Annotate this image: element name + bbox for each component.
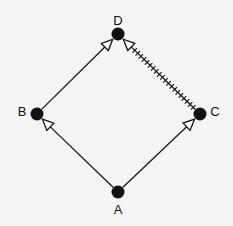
- edge-b-d: [42, 39, 113, 109]
- graph-svg: [0, 0, 233, 226]
- edge-a-c: [123, 119, 195, 187]
- diagram-canvas: A B C D: [0, 0, 233, 226]
- node-label-b: B: [18, 105, 27, 118]
- node-a: [112, 186, 125, 199]
- node-label-a: A: [114, 203, 123, 216]
- edge-c-d: [123, 39, 195, 109]
- node-label-c: C: [210, 105, 219, 118]
- edge-a-b: [42, 119, 113, 187]
- node-c: [194, 108, 207, 121]
- edge-line: [42, 47, 105, 109]
- node-b: [31, 108, 44, 121]
- edge-line: [123, 127, 187, 188]
- edge-line: [50, 127, 113, 188]
- node-label-d: D: [113, 14, 122, 27]
- node-d: [112, 28, 125, 41]
